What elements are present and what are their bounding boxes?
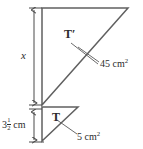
label-triangle-small: T [52,111,60,123]
label-height-unknown: x [21,50,26,61]
label-height-known: 312 cm [2,117,26,131]
label-area-large-exponent: 2 [125,57,128,64]
label-area-large: 45 cm2 [100,58,128,69]
label-triangle-large: T′ [64,28,75,40]
large-triangle-shape [42,8,128,105]
label-area-small-value: 5 cm [77,131,97,142]
label-area-small-exponent: 2 [97,130,100,137]
geometry-figure: x T′ T 45 cm2 5 cm2 312 cm [0,0,143,149]
label-area-small: 5 cm2 [77,131,100,142]
label-height-fraction: 12 [7,117,10,131]
label-height-whole: 3 [2,119,7,130]
label-area-large-value: 45 cm [100,58,125,69]
label-height-unit: cm [13,119,25,130]
label-height-numerator: 1 [7,117,10,124]
label-height-denominator: 2 [7,124,10,132]
